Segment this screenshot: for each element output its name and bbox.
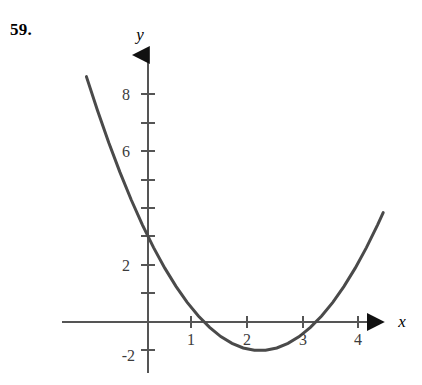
parabola-curve xyxy=(86,77,383,351)
x-tick-label-4: 4 xyxy=(354,331,362,348)
y-tick-label-2: 2 xyxy=(122,257,130,274)
y-tick-label-6: 6 xyxy=(122,143,130,160)
y-axis-label: y xyxy=(134,25,144,44)
figure-page: 59. xyxy=(0,0,422,385)
x-tick-label-2: 2 xyxy=(243,331,251,348)
y-tick-label-minus-2: -2 xyxy=(122,347,135,364)
x-tick-label-1: 1 xyxy=(187,331,195,348)
x-axis-label: x xyxy=(397,312,406,331)
parabola-graph: 8 6 2 -2 1 2 3 4 y x xyxy=(0,0,422,385)
x-tick-label-3: 3 xyxy=(299,331,307,348)
y-tick-label-8: 8 xyxy=(122,86,130,103)
